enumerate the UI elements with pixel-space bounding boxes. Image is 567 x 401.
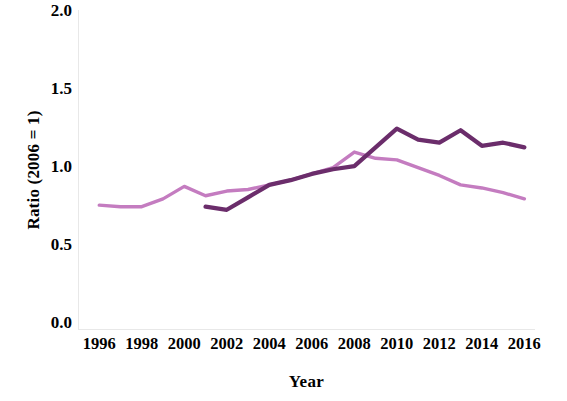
- y-tick-label: 2.0: [26, 2, 72, 19]
- y-axis-title: Ratio (2006 = 1): [24, 40, 44, 300]
- x-axis-title: Year: [78, 372, 535, 392]
- series-line-dark-purple: [206, 129, 525, 210]
- x-axis-ticks: 1996 1998 2000 2002 2004 2006 2008 2010 …: [78, 336, 535, 360]
- y-tick-label: 0.0: [26, 314, 72, 331]
- x-tick-label: 2016: [494, 336, 554, 353]
- plot-area: [78, 10, 535, 330]
- line-chart: 2.0 1.5 1.0 0.5 0.0 1996 1998 2000 2002 …: [0, 0, 567, 401]
- series-canvas: [78, 10, 535, 330]
- series-line-light-purple: [99, 152, 524, 207]
